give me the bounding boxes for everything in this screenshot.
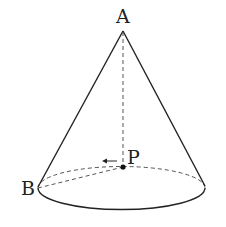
base-front-arc — [38, 188, 205, 210]
cone-diagram: A P B — [0, 0, 226, 227]
label-a: A — [115, 5, 130, 27]
base-back-arc — [38, 167, 205, 189]
slant-edge-left — [38, 31, 123, 187]
radius-line-bp — [38, 167, 123, 188]
label-b: B — [21, 177, 35, 199]
cone-figure: A P B — [0, 0, 226, 227]
label-p: P — [127, 146, 140, 168]
point-p — [120, 164, 125, 169]
arrow-icon — [102, 159, 117, 164]
